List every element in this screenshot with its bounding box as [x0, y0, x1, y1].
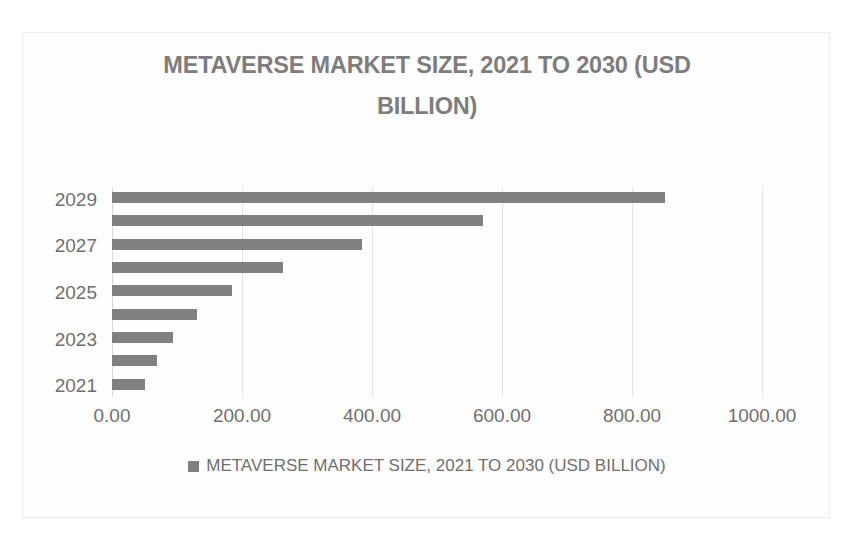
legend-swatch-icon — [188, 461, 199, 472]
y-axis: 20212023202520272029 — [23, 187, 107, 397]
chart-card: METAVERSE MARKET SIZE, 2021 TO 2030 (USD… — [22, 32, 830, 518]
bar-row — [112, 257, 762, 280]
x-axis: 0.00200.00400.00600.00800.001000.00 — [112, 405, 762, 433]
y-axis-label-2023: 2023 — [55, 329, 97, 348]
x-axis-label-400.00: 400.00 — [343, 405, 401, 427]
bar-row — [112, 350, 762, 373]
bar-2029[interactable] — [112, 192, 665, 203]
bar-row — [112, 327, 762, 350]
bar-row — [112, 280, 762, 303]
x-axis-label-200.00: 200.00 — [213, 405, 271, 427]
x-axis-label-0.00: 0.00 — [94, 405, 131, 427]
x-axis-label-1000.00: 1000.00 — [728, 405, 797, 427]
chart-plot-wrapper: 20212023202520272029 0.00200.00400.00600… — [23, 33, 831, 519]
bar-series — [112, 187, 762, 397]
bar-2024[interactable] — [112, 309, 197, 320]
bar-2022[interactable] — [112, 355, 157, 366]
bar-row — [112, 374, 762, 397]
y-axis-label-2027: 2027 — [55, 236, 97, 255]
legend-label: METAVERSE MARKET SIZE, 2021 TO 2030 (USD… — [206, 456, 665, 476]
y-axis-label-2021: 2021 — [55, 376, 97, 395]
bar-2028[interactable] — [112, 215, 483, 226]
y-axis-label-2025: 2025 — [55, 283, 97, 302]
x-axis-label-600.00: 600.00 — [473, 405, 531, 427]
gridline-1000 — [762, 187, 763, 397]
bar-2021[interactable] — [112, 379, 145, 390]
bar-row — [112, 304, 762, 327]
plot-area — [112, 187, 762, 397]
bar-2026[interactable] — [112, 262, 283, 273]
x-axis-label-800.00: 800.00 — [603, 405, 661, 427]
chart-legend: METAVERSE MARKET SIZE, 2021 TO 2030 (USD… — [23, 456, 831, 476]
bar-2023[interactable] — [112, 332, 173, 343]
y-axis-label-2029: 2029 — [55, 189, 97, 208]
bar-2025[interactable] — [112, 285, 232, 296]
bar-2027[interactable] — [112, 239, 362, 250]
bar-row — [112, 210, 762, 233]
bar-row — [112, 187, 762, 210]
bar-row — [112, 234, 762, 257]
